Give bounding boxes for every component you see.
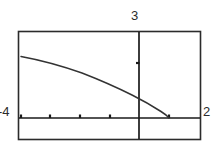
graph-plot bbox=[0, 0, 214, 151]
x-max-label: 2 bbox=[203, 105, 210, 118]
plot-frame bbox=[19, 32, 201, 140]
x-min-label: -4 bbox=[0, 105, 10, 118]
y-max-label: 3 bbox=[131, 9, 138, 22]
graph-screenshot: 3 -4 2 bbox=[0, 0, 214, 151]
